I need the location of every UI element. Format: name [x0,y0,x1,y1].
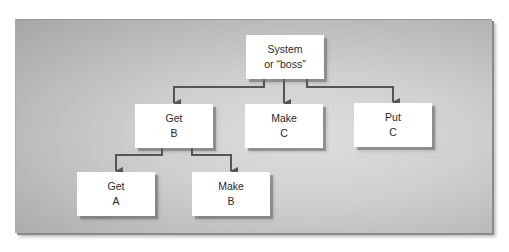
node-make-c: Make C [245,104,323,148]
node-label-line1: Make [218,179,244,194]
node-make-b: Make B [192,172,270,216]
node-label-line2: B [227,194,234,209]
node-get-a: Get A [77,172,155,216]
node-label-line2: or “boss” [264,57,305,72]
node-label-line2: B [170,126,177,141]
node-label-line2: A [112,194,119,209]
node-label-line1: Get [166,111,183,126]
node-label-line1: Put [385,110,401,125]
node-put-c: Put C [354,103,432,147]
node-label-line1: System [267,42,302,57]
node-label-line2: C [389,125,397,140]
node-system-boss: System or “boss” [246,35,324,79]
node-label-line1: Get [108,179,125,194]
node-label-line2: C [280,126,288,141]
node-label-line1: Make [271,111,297,126]
node-get-b: Get B [135,104,213,148]
